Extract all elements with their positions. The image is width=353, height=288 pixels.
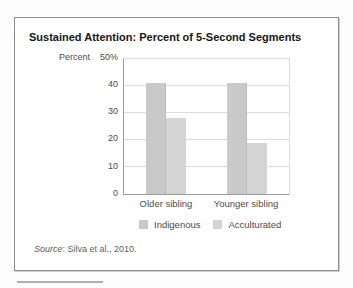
legend-swatch-acculturated <box>213 220 222 229</box>
bar-older-indigenous <box>146 83 166 194</box>
source-label: Source <box>34 244 63 254</box>
y-tick-50: 50% <box>15 52 118 63</box>
figure-panel: Sustained Attention: Percent of 5-Second… <box>14 17 339 271</box>
source-text: : Silva et al., 2010. <box>63 244 137 254</box>
y-tick-20: 20 <box>15 133 118 144</box>
legend-label-indigenous: Indigenous <box>154 219 200 230</box>
legend-swatch-indigenous <box>139 220 148 229</box>
legend-item-indigenous: Indigenous <box>139 219 200 230</box>
plot-area <box>123 58 290 195</box>
bottom-rule <box>17 281 103 283</box>
bar-group-younger-sibling <box>227 59 267 194</box>
legend: Indigenous Acculturated <box>139 219 281 230</box>
x-label-younger-sibling: Younger sibling <box>186 198 306 209</box>
y-tick-40: 40 <box>15 79 118 90</box>
source-note: Source: Silva et al., 2010. <box>34 244 137 255</box>
legend-item-acculturated: Acculturated <box>213 219 281 230</box>
y-tick-30: 30 <box>15 106 118 117</box>
bar-younger-indigenous <box>227 83 247 194</box>
chart-title: Sustained Attention: Percent of 5-Second… <box>29 30 329 44</box>
bar-older-acculturated <box>166 118 186 194</box>
y-tick-10: 10 <box>15 161 118 172</box>
legend-label-acculturated: Acculturated <box>228 219 281 230</box>
y-tick-0: 0 <box>15 188 118 199</box>
bar-younger-acculturated <box>247 143 267 194</box>
bar-group-older-sibling <box>146 59 186 194</box>
